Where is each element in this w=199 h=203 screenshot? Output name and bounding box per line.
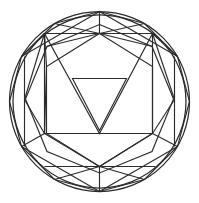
- geometric-mandala-svg: [0, 0, 199, 203]
- figure-root: [0, 0, 199, 203]
